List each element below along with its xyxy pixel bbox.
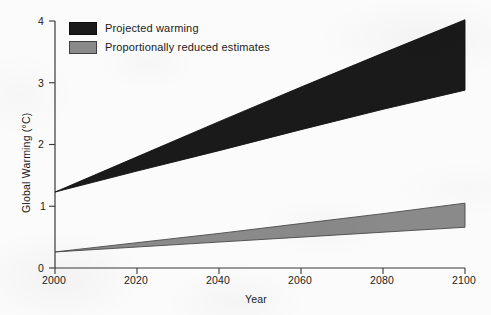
x-axis-title: Year [245,293,267,305]
y-axis-title: Global Warming (°C) [20,113,32,213]
x-tick-label-2060: 2060 [288,274,312,286]
y-tick-label-0: 0 [38,262,44,274]
y-axis-ticks [49,21,55,268]
x-axis-ticks [55,268,465,274]
chart-legend: Projected warming Proportionally reduced… [69,20,270,58]
chart-canvas: 0 1 2 3 4 2000 2020 2040 2060 2080 2100 … [0,0,491,315]
x-tick-label-2040: 2040 [206,274,230,286]
x-tick-label-2020: 2020 [124,274,148,286]
x-tick-label-2080: 2080 [370,274,394,286]
legend-swatch-projected-warming [69,22,97,35]
y-tick-label-3: 3 [38,77,44,89]
legend-item-projected-warming: Projected warming [69,20,270,36]
legend-item-proportionally-reduced-estimates: Proportionally reduced estimates [69,39,270,55]
band-proportionally-reduced-estimates [55,203,465,252]
y-tick-label-2: 2 [38,138,44,150]
x-tick-label-2100: 2100 [452,274,476,286]
legend-label-projected-warming: Projected warming [105,22,199,34]
legend-swatch-proportionally-reduced-estimates [69,41,97,54]
y-tick-label-4: 4 [38,15,44,27]
legend-label-proportionally-reduced-estimates: Proportionally reduced estimates [105,41,270,53]
x-tick-label-2000: 2000 [42,274,66,286]
y-tick-label-1: 1 [40,200,46,212]
